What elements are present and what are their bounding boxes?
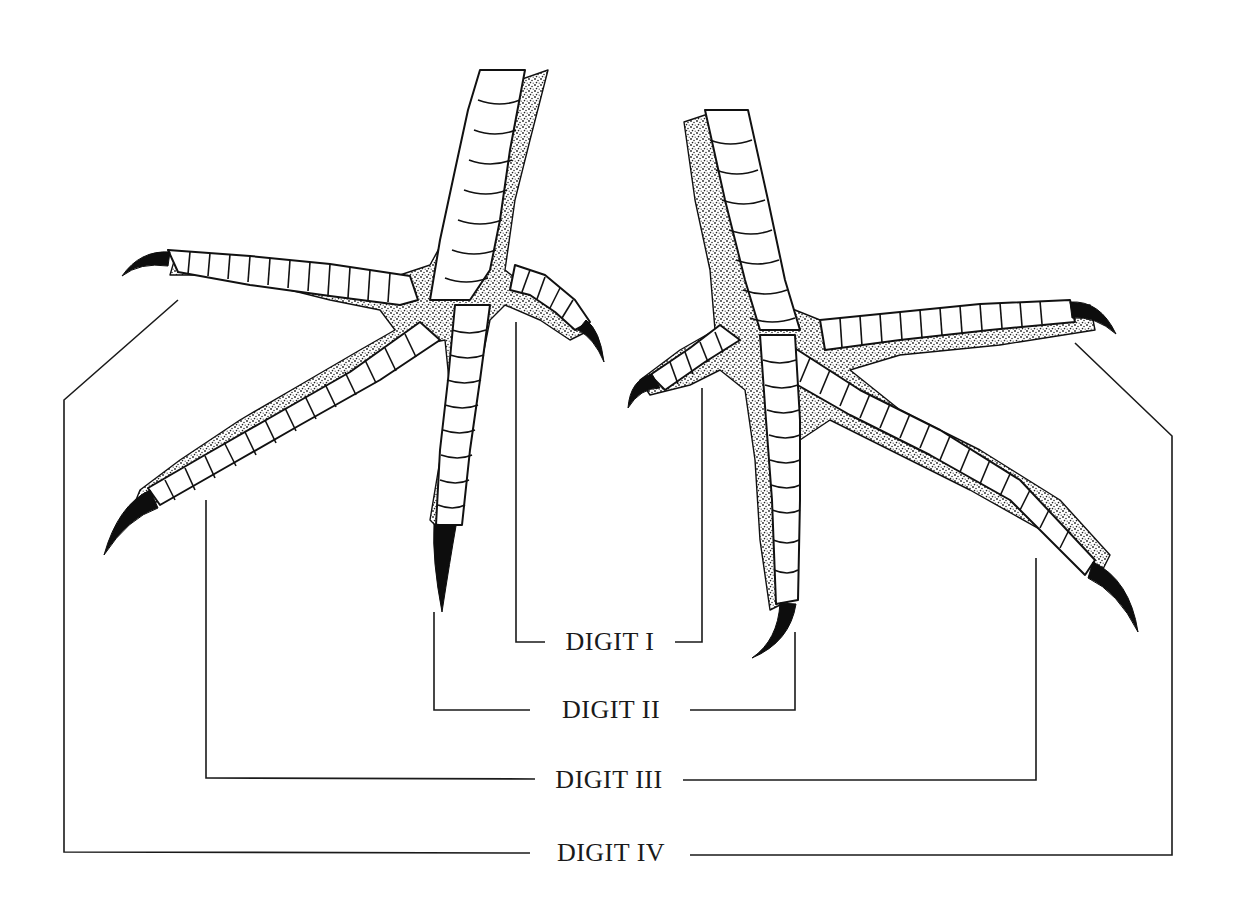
right-foot-webbing: [640, 110, 1110, 610]
left-digit-1-claw: [578, 320, 604, 362]
leader-digit-2-right: [690, 632, 795, 710]
leader-digit-3-left: [206, 500, 535, 779]
leader-digit-1-left: [516, 322, 545, 642]
left-digit-4: [168, 250, 418, 305]
left-digit-3: [148, 322, 440, 505]
left-foot: [104, 70, 604, 612]
label-digit-1: DIGIT I: [560, 627, 661, 657]
label-digit-2: DIGIT II: [556, 695, 666, 725]
label-digit-3: DIGIT III: [549, 765, 668, 795]
right-digit-3-claw: [1088, 562, 1138, 632]
left-digit-4-claw: [122, 252, 170, 276]
leader-digit-1-right: [675, 388, 702, 642]
left-digit-2-claw: [434, 524, 456, 612]
right-digit-2-claw: [752, 603, 796, 658]
leader-digit-3-right: [683, 558, 1036, 780]
right-foot: [628, 110, 1138, 658]
left-digit-3-claw: [104, 490, 158, 555]
right-digit-3: [780, 345, 1095, 575]
label-digit-4: DIGIT IV: [551, 838, 671, 868]
